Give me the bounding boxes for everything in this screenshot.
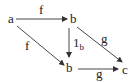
- node-b-top: b: [70, 12, 77, 25]
- edge-label-f-top: f: [39, 3, 43, 16]
- node-a: a: [8, 12, 14, 25]
- identity-subscript: b: [80, 42, 85, 52]
- edge-label-g-diagonal: g: [101, 32, 108, 45]
- node-c: c: [122, 63, 128, 76]
- edge-label-f-diagonal: f: [25, 39, 29, 52]
- node-b-bottom: b: [66, 61, 73, 74]
- edge-label-identity: 1b: [73, 36, 84, 54]
- edge-label-g-bottom: g: [96, 67, 103, 80]
- commutative-diagram: a b b c f f 1b g g: [0, 0, 138, 82]
